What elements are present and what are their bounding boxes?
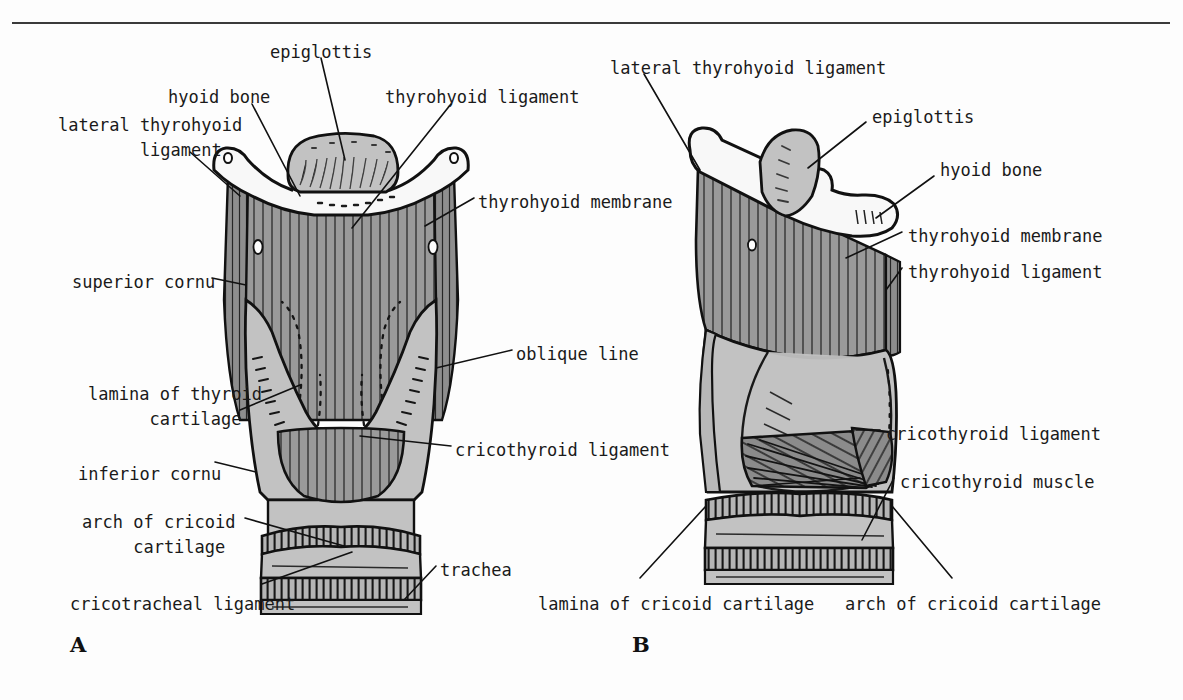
label-inferior-cornu-a: inferior cornu [78, 462, 221, 487]
label-thyrohyoid-membrane-a: thyrohyoid membrane [478, 190, 672, 215]
panel-letter-b: B [632, 632, 650, 657]
label-cricothyroid-muscle-b: cricothyroid muscle [900, 470, 1094, 495]
panel-b-artwork [640, 74, 952, 584]
label-lamina-of-thyroid-cartilage-a: lamina of thyroid cartilage [88, 382, 262, 432]
label-lateral-thyrohyoid-ligament-a: lateral thyrohyoid ligament [58, 113, 242, 163]
label-oblique-line-a: oblique line [516, 342, 639, 367]
label-lateral-thyrohyoid-ligament-b: lateral thyrohyoid ligament [610, 56, 886, 81]
figure-canvas: epiglottis hyoid bone thyrohyoid ligamen… [0, 0, 1183, 700]
label-arch-of-cricoid-cartilage-a: arch of cricoid cartilage [82, 510, 236, 560]
label-thyrohyoid-ligament-a: thyrohyoid ligament [385, 85, 579, 110]
label-thyrohyoid-membrane-b: thyrohyoid membrane [908, 224, 1102, 249]
label-cricotracheal-ligament-a: cricotracheal ligament [70, 592, 295, 617]
label-epiglottis-a: epiglottis [270, 40, 372, 65]
label-trachea-a: trachea [440, 558, 512, 583]
label-arch-of-cricoid-cartilage-b: arch of cricoid cartilage [845, 592, 1101, 617]
label-cricothyroid-ligament-b: cricothyroid ligament [886, 422, 1101, 447]
label-hyoid-bone-a: hyoid bone [168, 85, 270, 110]
label-hyoid-bone-b: hyoid bone [940, 158, 1042, 183]
label-lamina-of-cricoid-cartilage-b: lamina of cricoid cartilage [538, 592, 814, 617]
label-thyrohyoid-ligament-b: thyrohyoid ligament [908, 260, 1102, 285]
label-superior-cornu-a: superior cornu [72, 270, 215, 295]
top-horizontal-rule [12, 22, 1170, 24]
label-cricothyroid-ligament-a: cricothyroid ligament [455, 438, 670, 463]
panel-letter-a: A [70, 632, 86, 657]
label-epiglottis-b: epiglottis [872, 105, 974, 130]
